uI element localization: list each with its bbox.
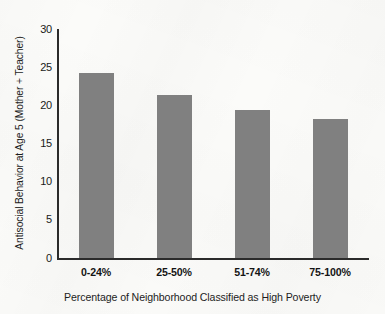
bar (79, 73, 114, 258)
y-axis-line (57, 29, 59, 260)
y-axis-tick-label: 5 (30, 214, 52, 225)
bar (235, 110, 270, 258)
y-axis-tick-label: 10 (30, 176, 52, 187)
bar (313, 119, 348, 258)
x-axis-tick-label: 51-74% (213, 266, 291, 279)
bar (157, 95, 192, 258)
y-axis-tick-label: 0 (30, 253, 52, 264)
x-axis-line (57, 258, 369, 260)
y-axis-title: Antisocial Behavior at Age 5 (Mother + T… (11, 18, 29, 268)
x-axis-tick-labels: 0-24%25-50%51-74%75-100% (57, 266, 369, 280)
bar-chart-figure: Antisocial Behavior at Age 5 (Mother + T… (0, 0, 385, 314)
plot-area (57, 29, 369, 260)
y-axis-tick-label: 25 (30, 62, 52, 73)
x-axis-tick-label: 0-24% (57, 266, 135, 279)
y-axis-tick-labels: 051015202530 (30, 0, 52, 314)
x-axis-title: Percentage of Neighborhood Classified as… (0, 291, 385, 303)
y-axis-tick-label: 15 (30, 138, 52, 149)
y-axis-tick-label: 20 (30, 100, 52, 111)
x-axis-tick-label: 75-100% (291, 266, 369, 279)
x-axis-tick-label: 25-50% (135, 266, 213, 279)
y-axis-tick-label: 30 (30, 24, 52, 35)
